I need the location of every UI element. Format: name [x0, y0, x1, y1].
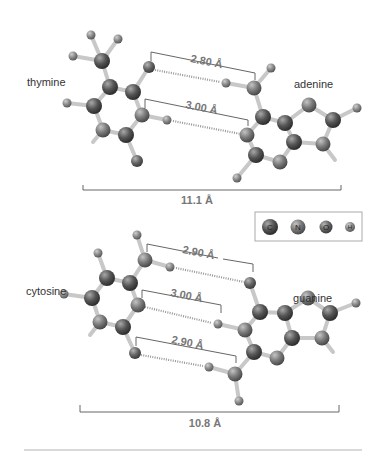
atom-n	[315, 331, 330, 346]
hbond-distance-3: 2.90 Å	[171, 333, 205, 351]
atom-h	[63, 99, 72, 108]
atom-o	[143, 61, 155, 73]
atom-h	[352, 299, 361, 308]
atom-c	[246, 344, 262, 360]
hbond-distance-2: 3.00 Å	[185, 98, 219, 116]
atom-h	[94, 249, 103, 258]
atom-h	[214, 320, 223, 329]
atom-n	[316, 137, 331, 152]
atom-c	[248, 147, 264, 163]
atom-h	[163, 116, 172, 125]
legend-item-hydrogen: H	[345, 222, 355, 232]
atom-h	[166, 263, 175, 272]
atom-h	[69, 52, 78, 61]
base-label-guanine: guanine	[293, 292, 332, 304]
atom-o	[131, 155, 143, 167]
cytosine-guanine-pair: 2.90 Å 3.00 Å 2.90 Å	[26, 231, 361, 430]
base-pair-diagram: 2.80 Å 3.00 Å	[0, 0, 383, 458]
atom-n	[302, 98, 317, 113]
hbond-distance-1: 2.90 Å	[182, 243, 216, 261]
atom-h	[233, 174, 242, 183]
atom-c	[325, 112, 341, 128]
hbond-distance-1: 2.80 Å	[190, 52, 224, 70]
atom-c	[84, 290, 100, 306]
atom-c	[277, 305, 293, 321]
total-width-label: 10.8 Å	[189, 417, 221, 429]
atom-h	[114, 35, 123, 44]
atom-n	[96, 123, 111, 138]
atom-c	[115, 319, 131, 335]
atom-n	[93, 315, 108, 330]
base-label-thymine: thymine	[27, 76, 66, 88]
atom-c	[255, 109, 271, 125]
atom-c	[122, 275, 138, 291]
svg-text:N: N	[295, 223, 301, 232]
atom-n	[247, 81, 262, 96]
svg-text:H: H	[348, 224, 352, 230]
atom-c	[284, 330, 300, 346]
atom-h	[205, 363, 214, 372]
atom-o	[129, 347, 141, 359]
atom-h	[235, 397, 244, 406]
atom-c	[286, 134, 302, 150]
thymine-atoms	[63, 31, 172, 168]
atom-c	[118, 127, 134, 143]
atom-n	[138, 253, 153, 268]
hydrogen-bonds	[141, 268, 244, 366]
atom-h	[222, 79, 231, 88]
width-bracket	[80, 405, 339, 412]
adenine-atoms	[222, 64, 362, 183]
base-label-adenine: adenine	[294, 78, 333, 90]
svg-text:C: C	[267, 223, 273, 232]
atom-h	[133, 231, 142, 240]
atom-n	[135, 108, 150, 123]
legend-item-nitrogen: N	[291, 220, 306, 235]
atom-legend: C N O H	[255, 212, 362, 241]
atom-n	[270, 351, 285, 366]
atom-c	[102, 79, 118, 95]
atom-h	[87, 31, 96, 40]
atom-o	[244, 277, 256, 289]
svg-text:O: O	[323, 223, 329, 232]
width-bracket	[83, 185, 341, 190]
atom-c	[86, 98, 102, 114]
thymine-adenine-pair: 2.80 Å 3.00 Å	[27, 31, 362, 207]
atom-c	[252, 304, 268, 320]
atom-h	[353, 104, 362, 113]
atom-h	[267, 64, 276, 73]
atom-c	[322, 305, 338, 321]
legend-item-oxygen: O	[320, 221, 333, 234]
atom-c	[125, 84, 141, 100]
atom-n	[240, 128, 255, 143]
atom-n	[273, 155, 288, 170]
atom-c	[99, 270, 115, 286]
atom-c	[277, 115, 293, 131]
atom-c	[94, 53, 110, 69]
legend-item-carbon: C	[262, 219, 278, 235]
base-label-cytosine: cytosine	[26, 285, 66, 297]
atom-n	[238, 323, 253, 338]
atom-n	[228, 367, 243, 382]
hbond-distance-2: 3.00 Å	[170, 286, 204, 304]
guanine-atoms	[205, 277, 361, 406]
total-width-label: 11.1 Å	[181, 194, 213, 206]
atom-n	[131, 298, 146, 313]
